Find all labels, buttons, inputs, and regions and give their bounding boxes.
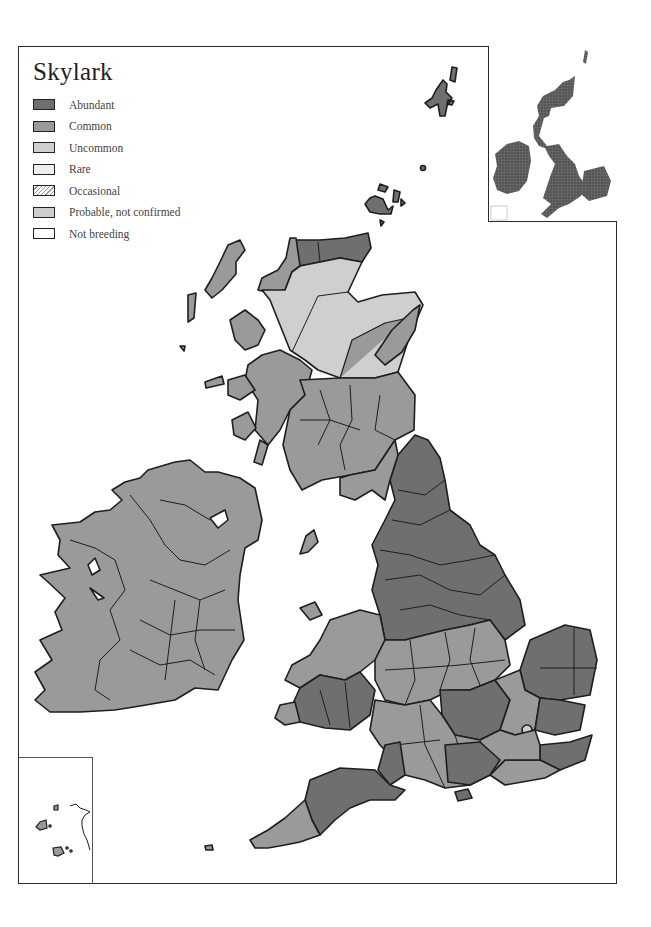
region-scilly [205,845,213,850]
legend-label: Not breeding [69,228,129,240]
legend-label: Rare [69,163,91,175]
region-lewis [205,240,245,298]
region-skye [230,310,265,350]
region-mull [205,375,255,400]
legend-swatch [33,121,55,132]
legend: Abundant Common Uncommon Rare Occasional… [33,94,180,245]
legend-label: Probable, not confirmed [69,206,180,218]
region-east-anglia [520,625,597,700]
region-pembroke [275,702,300,725]
legend-item-occasional: Occasional [33,180,180,202]
legend-item-rare: Rare [33,159,180,181]
region-anglesey [300,602,322,620]
map-title: Skylark [33,58,113,86]
legend-swatch [33,185,55,196]
legend-label: Occasional [69,185,120,197]
region-wales [285,610,385,688]
legend-item-not-breeding: Not breeding [33,223,180,245]
legend-swatch [33,207,55,218]
legend-label: Uncommon [69,142,123,154]
channel-islands-inset [18,757,93,884]
region-essex-kent [535,698,592,770]
legend-label: Common [69,120,112,132]
overview-map [489,46,618,222]
region-isle-of-man [300,530,318,554]
region-orkney [365,184,405,226]
legend-item-common: Common [33,116,180,138]
legend-item-probable: Probable, not confirmed [33,202,180,224]
region-isle-of-wight [455,789,472,801]
legend-label: Abundant [69,99,114,111]
overview-inset [488,46,617,222]
legend-item-uncommon: Uncommon [33,137,180,159]
legend-swatch [33,142,55,153]
region-shetland [425,67,457,116]
legend-swatch [33,164,55,175]
region-uist [180,293,196,351]
legend-item-abundant: Abundant [33,94,180,116]
legend-swatch [33,228,55,239]
region-ireland [35,460,262,712]
legend-swatch [33,99,55,110]
